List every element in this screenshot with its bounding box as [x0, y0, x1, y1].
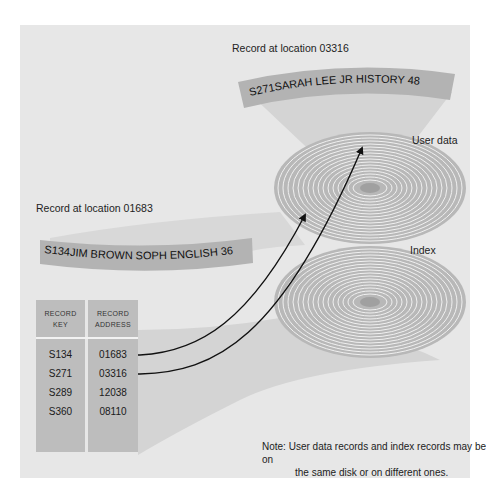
table-cell-key: S360	[36, 406, 85, 417]
record-key-header: RECORD KEY	[36, 308, 85, 330]
index-label: Index	[410, 244, 436, 256]
index-disk	[274, 246, 466, 358]
table-cell-address: 03316	[88, 368, 138, 379]
table-cell-key: S289	[36, 387, 85, 398]
user-data-label: User data	[412, 134, 458, 146]
index-table: RECORD KEY S134 S271 S289 S360 RECORD AD…	[36, 300, 138, 455]
table-cell-address: 01683	[88, 349, 138, 360]
left-record-location-label: Record at location 01683	[36, 202, 153, 214]
table-cell-address: 12038	[88, 387, 138, 398]
note-text: Note: User data records and index record…	[262, 440, 486, 479]
table-header-divider	[36, 337, 138, 339]
table-cell-key: S134	[36, 349, 85, 360]
top-record-location-label: Record at location 03316	[232, 42, 349, 54]
record-key-column: RECORD KEY S134 S271 S289 S360	[36, 300, 85, 452]
record-address-header: RECORD ADDRESS	[88, 308, 138, 330]
user-data-disk	[274, 132, 466, 244]
table-cell-key: S271	[36, 368, 85, 379]
table-cell-address: 08110	[88, 406, 138, 417]
record-address-column: RECORD ADDRESS 01683 03316 12038 08110	[88, 300, 138, 452]
